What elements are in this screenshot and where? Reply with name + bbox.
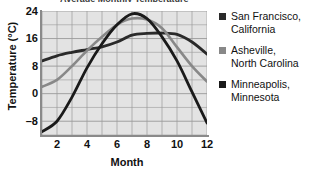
y-tick-label: 0 (2, 88, 38, 99)
legend-swatch-icon (219, 13, 226, 20)
legend-item[interactable]: Asheville, North Carolina (219, 44, 325, 69)
legend-label-line2: North Carolina (231, 57, 299, 70)
x-tick-label: 10 (165, 139, 189, 150)
legend-label-line1: San Francisco, (231, 10, 301, 22)
data-series-line (42, 33, 207, 61)
y-tick-label: 8 (2, 61, 38, 72)
x-tick-label: 2 (45, 139, 69, 150)
legend-label-line1: Minneapolis, (231, 78, 290, 90)
legend-label: Asheville, North Carolina (231, 44, 299, 69)
legend-swatch-icon (219, 81, 226, 88)
legend-label-line2: California (231, 23, 301, 36)
legend-item[interactable]: San Francisco, California (219, 10, 325, 35)
y-tick-label: 16 (2, 33, 38, 44)
legend-label: Minneapolis, Minnesota (231, 78, 290, 103)
x-axis-title: Month (82, 156, 172, 168)
y-axis-tick-labels: 24 16 8 0 –8 (0, 0, 38, 186)
x-tick-label: 4 (75, 139, 99, 150)
legend-item[interactable]: Minneapolis, Minnesota (219, 78, 325, 103)
legend-label-line2: Minnesota (231, 91, 290, 104)
y-tick-label: –8 (2, 116, 38, 127)
chart-figure: Average Monthly Temperature Temperature … (0, 0, 325, 186)
x-tick-label: 6 (105, 139, 129, 150)
x-tick-label: 8 (135, 139, 159, 150)
chart-legend: San Francisco, California Asheville, Nor… (219, 10, 325, 112)
plot-svg (42, 11, 207, 135)
chart-title: Average Monthly Temperature (60, 0, 210, 2)
legend-swatch-icon (219, 47, 226, 54)
plot-area (42, 11, 207, 135)
y-tick-label: 24 (2, 6, 38, 17)
legend-label: San Francisco, California (231, 10, 301, 35)
x-axis-line (40, 135, 209, 137)
legend-label-line1: Asheville, (231, 44, 276, 56)
x-tick-label: 12 (195, 139, 219, 150)
